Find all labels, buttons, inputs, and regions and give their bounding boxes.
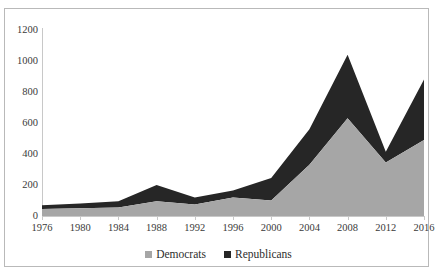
x-tick-label: 2000 — [251, 222, 291, 233]
legend-label: Democrats — [156, 248, 206, 260]
x-tick-mark — [80, 216, 81, 220]
x-tick-mark — [195, 216, 196, 220]
x-tick-label: 1988 — [137, 222, 177, 233]
x-tick-mark — [424, 216, 425, 220]
legend-label: Republicans — [235, 248, 292, 260]
x-tick-mark — [309, 216, 310, 220]
x-tick-label: 2004 — [289, 222, 329, 233]
x-tick-mark — [233, 216, 234, 220]
x-tick-label: 1996 — [213, 222, 253, 233]
chart-plot-area — [0, 0, 437, 275]
legend-item[interactable]: Republicans — [224, 248, 292, 260]
x-tick-mark — [271, 216, 272, 220]
x-tick-label: 2016 — [404, 222, 437, 233]
legend-item[interactable]: Democrats — [145, 248, 206, 260]
x-tick-label: 1992 — [175, 222, 215, 233]
x-tick-label: 1984 — [98, 222, 138, 233]
x-tick-label: 2008 — [328, 222, 368, 233]
x-tick-label: 1980 — [60, 222, 100, 233]
chart-legend: DemocratsRepublicans — [0, 248, 437, 260]
x-tick-label: 1976 — [22, 222, 62, 233]
x-tick-mark — [348, 216, 349, 220]
legend-square-marker-icon — [224, 251, 231, 258]
x-tick-label: 2012 — [366, 222, 406, 233]
x-tick-mark — [42, 216, 43, 220]
x-tick-mark — [118, 216, 119, 220]
x-tick-mark — [157, 216, 158, 220]
stacked-area-chart: 020040060080010001200 197619801984198819… — [0, 0, 437, 275]
legend-square-marker-icon — [145, 251, 152, 258]
x-tick-mark — [386, 216, 387, 220]
